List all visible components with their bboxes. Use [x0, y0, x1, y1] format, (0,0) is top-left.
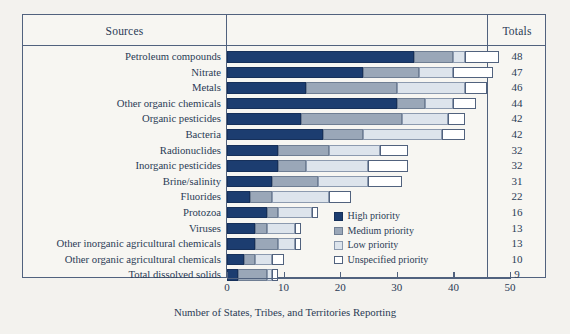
- row-total: 42: [488, 112, 546, 126]
- chart-legend: High priorityMedium priorityLow priority…: [334, 209, 428, 267]
- category-label: Bacteria: [185, 128, 221, 142]
- row-total: 42: [488, 128, 546, 142]
- chart-row: Organic pesticides42: [227, 112, 510, 128]
- bar-segment-low: [419, 67, 453, 79]
- stacked-bar: [227, 82, 487, 94]
- row-total: 44: [488, 97, 546, 111]
- x-tick-label: 40: [438, 281, 468, 293]
- bar-segment-low: [397, 82, 465, 94]
- row-total: 46: [488, 81, 546, 95]
- category-label: Radionuclides: [160, 144, 221, 158]
- bar-segment-med: [272, 176, 317, 188]
- chart-row: Nitrate47: [227, 66, 510, 82]
- category-label: Other inorganic agricultural chemicals: [56, 237, 221, 251]
- chart-row: Fluorides22: [227, 190, 510, 206]
- bar-segment-high: [227, 223, 255, 235]
- category-label: Fluorides: [181, 190, 221, 204]
- bar-segment-high: [227, 207, 267, 219]
- category-label: Brine/salinity: [163, 175, 221, 189]
- bar-segment-high: [227, 129, 323, 141]
- x-tick-label: 10: [269, 281, 299, 293]
- category-label: Nitrate: [191, 66, 221, 80]
- chart-row: Inorganic pesticides32: [227, 159, 510, 175]
- row-total: 47: [488, 66, 546, 80]
- row-total: 31: [488, 175, 546, 189]
- bar-segment-med: [301, 113, 403, 125]
- bar-segment-uns: [465, 82, 488, 94]
- legend-swatch-med: [334, 227, 343, 236]
- legend-item: Unspecified priority: [334, 253, 428, 268]
- row-total: 13: [488, 222, 546, 236]
- category-label: Metals: [192, 81, 221, 95]
- chart-row: Other organic chemicals44: [227, 97, 510, 113]
- stacked-bar: [227, 176, 402, 188]
- stacked-bar: [227, 160, 408, 172]
- stacked-bar: [227, 129, 465, 141]
- stacked-bar: [227, 98, 476, 110]
- row-total: 13: [488, 237, 546, 251]
- legend-item: Medium priority: [334, 224, 428, 239]
- category-label: Total dissolved solids: [129, 268, 221, 282]
- x-tick: [340, 272, 341, 279]
- legend-label: High priority: [348, 209, 401, 224]
- category-label: Protozoa: [183, 206, 221, 220]
- bar-segment-low: [306, 160, 368, 172]
- row-total: 10: [488, 253, 546, 267]
- bar-segment-high: [227, 176, 272, 188]
- row-total: 32: [488, 159, 546, 173]
- bar-segment-med: [250, 191, 273, 203]
- bar-segment-med: [414, 51, 454, 63]
- row-total: 48: [488, 50, 546, 64]
- x-tick-label: 50: [495, 281, 525, 293]
- bar-segment-uns: [295, 238, 301, 250]
- legend-swatch-uns: [334, 256, 343, 265]
- stacked-bar: [227, 238, 301, 250]
- bar-segment-low: [318, 176, 369, 188]
- bar-segment-low: [278, 238, 295, 250]
- bar-segment-low: [402, 113, 447, 125]
- bar-segment-high: [227, 191, 250, 203]
- x-tick-label: 0: [212, 281, 242, 293]
- chart-row: Metals46: [227, 81, 510, 97]
- chart-row: Radionuclides32: [227, 144, 510, 160]
- bar-segment-uns: [442, 129, 465, 141]
- bar-segment-med: [306, 82, 397, 94]
- category-label: Viruses: [189, 222, 221, 236]
- bar-segment-uns: [453, 98, 476, 110]
- bar-segment-uns: [272, 254, 283, 266]
- legend-item: High priority: [334, 209, 428, 224]
- category-label: Inorganic pesticides: [135, 159, 221, 173]
- bar-segment-high: [227, 82, 306, 94]
- stacked-bar: [227, 145, 408, 157]
- bar-segment-med: [323, 129, 363, 141]
- bar-segment-high: [227, 98, 397, 110]
- bar-segment-uns: [368, 160, 408, 172]
- legend-swatch-high: [334, 212, 343, 221]
- category-label: Petroleum compounds: [125, 50, 221, 64]
- chart-row: Petroleum compounds48: [227, 50, 510, 66]
- column-header-totals: Totals: [488, 20, 546, 42]
- bar-segment-uns: [312, 207, 318, 219]
- category-label: Other organic chemicals: [117, 97, 221, 111]
- bar-segment-med: [363, 67, 420, 79]
- row-total: 16: [488, 206, 546, 220]
- bar-segment-uns: [368, 176, 402, 188]
- bar-segment-uns: [329, 191, 352, 203]
- header-rule: [22, 45, 546, 46]
- stacked-bar: [227, 51, 499, 63]
- bar-segment-high: [227, 67, 363, 79]
- stacked-bar: [227, 223, 301, 235]
- row-total: 32: [488, 144, 546, 158]
- bar-segment-med: [278, 160, 306, 172]
- bar-segment-high: [227, 238, 255, 250]
- bar-segment-high: [227, 160, 278, 172]
- bar-segment-med: [244, 254, 255, 266]
- row-total: 22: [488, 190, 546, 204]
- bar-segment-med: [255, 238, 278, 250]
- x-tick: [284, 272, 285, 279]
- bar-segment-low: [267, 223, 295, 235]
- bar-segment-low: [272, 191, 329, 203]
- stacked-bar: [227, 191, 352, 203]
- x-axis-label: Number of States, Tribes, and Territorie…: [0, 306, 570, 318]
- column-header-sources: Sources: [23, 20, 226, 42]
